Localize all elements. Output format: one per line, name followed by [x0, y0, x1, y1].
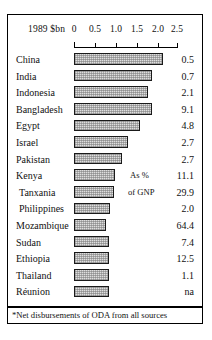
bar-row-value: 0.7	[182, 69, 195, 84]
bar-row-value: 7.4	[182, 235, 195, 250]
bar	[74, 53, 163, 65]
bar-track	[74, 136, 128, 148]
bar-row: Ethiopia12.5	[8, 250, 202, 267]
bar	[74, 269, 109, 281]
bar-track	[74, 86, 148, 98]
bar-row-label: Sudan	[16, 235, 41, 250]
bar-row-value: 1.1	[182, 268, 195, 283]
bar	[74, 169, 115, 181]
bar-row-value: 9.1	[182, 102, 195, 117]
x-axis-tick-1.0	[116, 43, 117, 48]
bar-row-label: Pakistan	[16, 152, 50, 167]
x-tick-label-2.0: 2.0	[152, 24, 164, 34]
bar	[74, 103, 152, 115]
x-axis-tick-0.5	[95, 43, 96, 48]
chart-header: 1989 $bn 0 0.5 1.0 1.5 2.0 2.5	[8, 21, 202, 43]
footnote: *Net disbursements of ODA from all sourc…	[12, 309, 167, 322]
bar-track	[74, 219, 106, 231]
bar-track	[74, 70, 152, 82]
bar-row: Thailand1.1	[8, 267, 202, 284]
x-tick-label-0: 0	[72, 24, 77, 34]
bar-row-label: Egypt	[16, 118, 40, 133]
bar-row: Bangladesh9.1	[8, 101, 202, 118]
bar-row: Egypt4.8	[8, 117, 202, 134]
x-axis-tick-1.5	[137, 43, 138, 48]
bar-row: China0.5	[8, 51, 202, 68]
bar-row-label: Kenya	[16, 168, 42, 183]
bar-row: Pakistan2.7	[8, 151, 202, 168]
bar-row-value: 2.7	[182, 152, 195, 167]
bar-track	[74, 153, 122, 165]
bar-row-value: 4.8	[182, 118, 195, 133]
bar-row-label: Thailand	[16, 268, 52, 283]
bar-track	[74, 252, 109, 264]
bar-row: India0.7	[8, 68, 202, 85]
bar	[74, 252, 109, 264]
bar-row: Indonesia2.1	[8, 84, 202, 101]
bar-row: Réunionna	[8, 283, 202, 300]
bar-track	[74, 103, 152, 115]
bar	[74, 86, 148, 98]
x-axis-tick-2.0	[158, 43, 159, 48]
footnote-divider	[8, 306, 202, 307]
bar-row-label: Indonesia	[16, 85, 55, 100]
bar-track	[74, 286, 109, 298]
bar-row: Sudan7.4	[8, 234, 202, 251]
bar-row: Kenya11.1As %	[8, 167, 202, 184]
unit-label: 1989 $bn	[28, 24, 65, 34]
bar-row-label: Philippines	[19, 201, 64, 216]
bar	[74, 203, 110, 215]
bar-track	[74, 236, 109, 248]
bar	[74, 219, 106, 231]
x-tick-label-0.5: 0.5	[89, 24, 101, 34]
bar-row-label: India	[16, 69, 37, 84]
bar-track	[74, 186, 114, 198]
bar-row-label: Tanxania	[19, 185, 56, 200]
bar-row-value: 2.7	[182, 135, 195, 150]
bar-row-label: Mozambique	[16, 218, 69, 233]
bar-row: Israel2.7	[8, 134, 202, 151]
bar-row-value: 2.0	[182, 201, 195, 216]
bar-row-label: Bangladesh	[16, 102, 63, 117]
bar	[74, 153, 122, 165]
x-tick-label-1.5: 1.5	[131, 24, 143, 34]
bar-row-label: Ethiopia	[16, 251, 50, 266]
x-axis-line	[74, 47, 177, 48]
bar	[74, 136, 128, 148]
bar-rows: China0.5India0.7Indonesia2.1Bangladesh9.…	[8, 51, 202, 300]
annotation-as-percent-of-gnp: of GNP	[128, 187, 155, 197]
bar	[74, 186, 114, 198]
bar	[74, 286, 109, 298]
x-axis-tick-0	[74, 42, 75, 48]
bar-row-value: 29.9	[177, 185, 195, 200]
bar-track	[74, 120, 140, 132]
bar-row-label: Réunion	[16, 284, 50, 299]
bar-row-value: 11.1	[177, 168, 194, 183]
bar-track	[74, 53, 163, 65]
bar-track	[74, 269, 109, 281]
annotation-as-percent-of-gnp: As %	[130, 170, 149, 180]
bar-row: Mozambique64.4	[8, 217, 202, 234]
bar	[74, 120, 140, 132]
x-axis-tick-2.5	[177, 43, 178, 48]
bar-row-value: 12.5	[177, 251, 195, 266]
bar-row-label: Israel	[16, 135, 38, 150]
bar-row-value: 2.1	[182, 85, 195, 100]
bar-track	[74, 169, 115, 181]
bar-row-value: 0.5	[182, 52, 195, 67]
x-tick-label-1.0: 1.0	[110, 24, 122, 34]
x-tick-label-2.5: 2.5	[171, 24, 183, 34]
bar-row-value: 64.4	[177, 218, 195, 233]
bar-track	[74, 203, 110, 215]
bar-row: Tanxania29.9of GNP	[8, 184, 202, 201]
bar-row-value: na	[185, 284, 194, 299]
bar-row: Philippines2.0	[8, 200, 202, 217]
bar	[74, 236, 109, 248]
bar-row-label: China	[16, 52, 40, 67]
chart-frame: 1989 $bn 0 0.5 1.0 1.5 2.0 2.5 China0.5I…	[7, 14, 203, 324]
bar	[74, 70, 152, 82]
